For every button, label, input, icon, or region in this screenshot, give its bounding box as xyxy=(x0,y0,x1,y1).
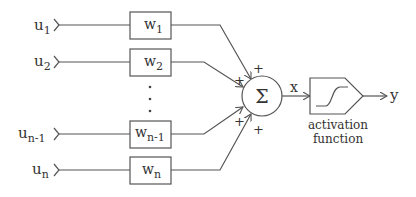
input-label-2: u2 xyxy=(34,52,51,73)
input-label-n: un xyxy=(32,160,49,181)
ellipsis-dot xyxy=(149,110,152,113)
ellipsis-dot xyxy=(149,98,152,101)
plus-sign-n: + xyxy=(253,122,264,137)
sigma-icon: Σ xyxy=(255,85,268,107)
weighted-line-2 xyxy=(171,62,243,87)
ellipsis-dot xyxy=(149,86,152,89)
input-chevron-1 xyxy=(54,19,59,31)
input-chevron-2 xyxy=(54,56,59,68)
input-chevron-n xyxy=(54,164,59,176)
weighted-line-n-1 xyxy=(171,107,243,134)
weighted-line-1 xyxy=(171,25,251,79)
plus-sign-n-1: + xyxy=(234,114,245,129)
input-label-1: u1 xyxy=(34,16,51,37)
input-label-n-1: un-1 xyxy=(18,124,45,145)
activation-function-block xyxy=(310,78,363,114)
activation-label-line2: function xyxy=(313,132,364,146)
plus-sign-1: + xyxy=(253,61,264,76)
neuron-diagram: u1 u2 un-1 un w1 w2 wn-1 wn + + + + Σ x … xyxy=(0,0,416,197)
input-chevron-n-1 xyxy=(54,128,59,140)
activation-label-line1: activation xyxy=(308,118,368,132)
output-label: y xyxy=(389,86,399,104)
plus-sign-2: + xyxy=(234,73,245,88)
sum-output-label: x xyxy=(290,79,298,95)
